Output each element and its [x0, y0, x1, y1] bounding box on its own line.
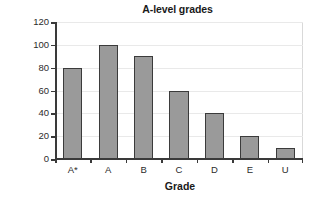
bar — [99, 45, 118, 159]
x-tick-label: D — [211, 165, 218, 175]
x-tick-label: E — [247, 165, 253, 175]
bar-chart: A-level grades Frequency 020406080100120… — [0, 0, 315, 200]
x-tick-label: A — [105, 165, 111, 175]
bar — [169, 91, 188, 160]
bar — [134, 56, 153, 159]
y-axis-line — [55, 22, 57, 159]
x-tick-label: A* — [68, 165, 78, 175]
x-tick-label: B — [140, 165, 146, 175]
x-tick-mark — [232, 159, 234, 163]
y-tick-label: 80 — [38, 63, 49, 73]
y-tick-label: 40 — [38, 108, 49, 118]
y-tick-label: 100 — [33, 40, 49, 50]
x-tick-mark — [268, 159, 270, 163]
x-tick-mark — [90, 159, 92, 163]
x-axis-line — [55, 158, 303, 160]
x-tick-mark — [126, 159, 128, 163]
y-tick-label: 20 — [38, 131, 49, 141]
gridline — [55, 45, 303, 46]
y-tick-label: 60 — [38, 86, 49, 96]
bar — [240, 136, 259, 159]
plot-area: 020406080100120 A*ABCDEU — [55, 22, 303, 159]
chart-title: A-level grades — [50, 3, 305, 15]
x-axis-title: Grade — [55, 180, 305, 192]
x-tick-label: C — [176, 165, 183, 175]
x-tick-mark — [161, 159, 163, 163]
x-tick-mark — [197, 159, 199, 163]
bar — [63, 68, 82, 159]
gridline — [55, 22, 303, 23]
y-tick-label: 0 — [44, 154, 49, 164]
x-tick-label: U — [282, 165, 289, 175]
bar — [205, 113, 224, 159]
x-tick-mark — [55, 159, 57, 163]
x-tick-mark — [302, 159, 304, 163]
y-tick-label: 120 — [33, 17, 49, 27]
gridline — [55, 68, 303, 69]
